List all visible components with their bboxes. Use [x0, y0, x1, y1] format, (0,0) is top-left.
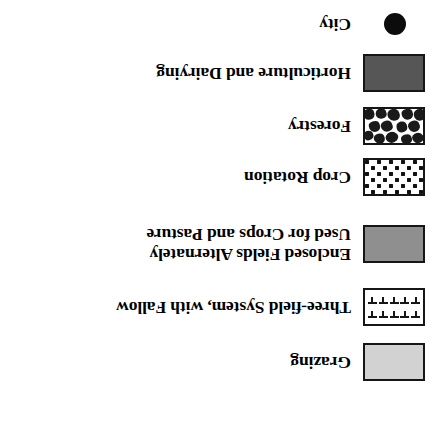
legend-label-line: Used for Crops and Pasture	[6, 225, 351, 245]
legend-label-line: Grazing	[6, 352, 351, 372]
legend-symbol-cell-three-field-system	[355, 288, 433, 326]
legend-item-forestry: Forestry	[0, 103, 433, 149]
legend-symbol-cell-enclosed-fields	[355, 226, 433, 264]
legend-label-city: City	[0, 14, 355, 34]
legend-symbol-cell-horticulture-dairying	[355, 54, 433, 92]
black-dot-symbol	[384, 13, 406, 35]
legend-label-line: Enclosed Fields Alternately	[6, 245, 351, 265]
legend-symbol-cell-forestry	[355, 107, 433, 145]
legend-symbol-cell-crop-rotation	[355, 158, 433, 196]
map-legend: Grazing	[0, 0, 433, 427]
legend-label-line: Horticulture and Dairying	[6, 63, 351, 83]
legend-item-three-field-system: Three-field System, with Fallow	[0, 282, 433, 332]
t-mark-grid	[365, 290, 423, 324]
legend-item-crop-rotation: Crop Rotation	[0, 153, 433, 201]
medium-gray-swatch	[363, 226, 425, 264]
t-mark-icon	[400, 296, 409, 304]
legend-symbol-cell-grazing	[355, 343, 433, 381]
light-gray-swatch	[363, 343, 425, 381]
legend-entry-list: Grazing	[0, 0, 433, 427]
legend-label-line: Crop Rotation	[6, 167, 351, 187]
legend-item-grazing: Grazing	[0, 337, 433, 387]
t-mark-pattern-swatch	[363, 288, 425, 326]
legend-label-line: Three-field System, with Fallow	[6, 297, 351, 317]
t-mark-row	[367, 310, 421, 318]
legend-label-three-field-system: Three-field System, with Fallow	[0, 297, 355, 317]
t-mark-icon	[368, 310, 377, 318]
dot-pattern-swatch	[363, 158, 425, 196]
legend-item-city: City	[0, 7, 433, 41]
legend-label-grazing: Grazing	[0, 352, 355, 372]
legend-label-line: City	[6, 14, 351, 34]
legend-label-line: Forestry	[6, 116, 351, 136]
t-mark-row	[367, 296, 421, 304]
t-mark-icon	[368, 296, 377, 304]
legend-item-horticulture-dairying: Horticulture and Dairying	[0, 49, 433, 97]
dark-gray-swatch	[363, 54, 425, 92]
legend-item-enclosed-fields: Enclosed Fields Alternately Used for Cro…	[0, 217, 433, 272]
t-mark-icon	[411, 296, 420, 304]
t-mark-icon	[390, 296, 399, 304]
mottled-canopy-swatch	[363, 107, 425, 145]
legend-label-enclosed-fields: Enclosed Fields Alternately Used for Cro…	[0, 225, 355, 264]
t-mark-icon	[379, 296, 388, 304]
legend-label-crop-rotation: Crop Rotation	[0, 167, 355, 187]
t-mark-icon	[411, 310, 420, 318]
t-mark-icon	[400, 310, 409, 318]
legend-symbol-cell-city	[355, 13, 433, 35]
mottled-texture	[363, 107, 425, 145]
t-mark-icon	[390, 310, 399, 318]
legend-label-horticulture-dairying: Horticulture and Dairying	[0, 63, 355, 83]
dot-pattern-fill	[364, 159, 424, 195]
t-mark-icon	[379, 310, 388, 318]
legend-label-forestry: Forestry	[0, 116, 355, 136]
